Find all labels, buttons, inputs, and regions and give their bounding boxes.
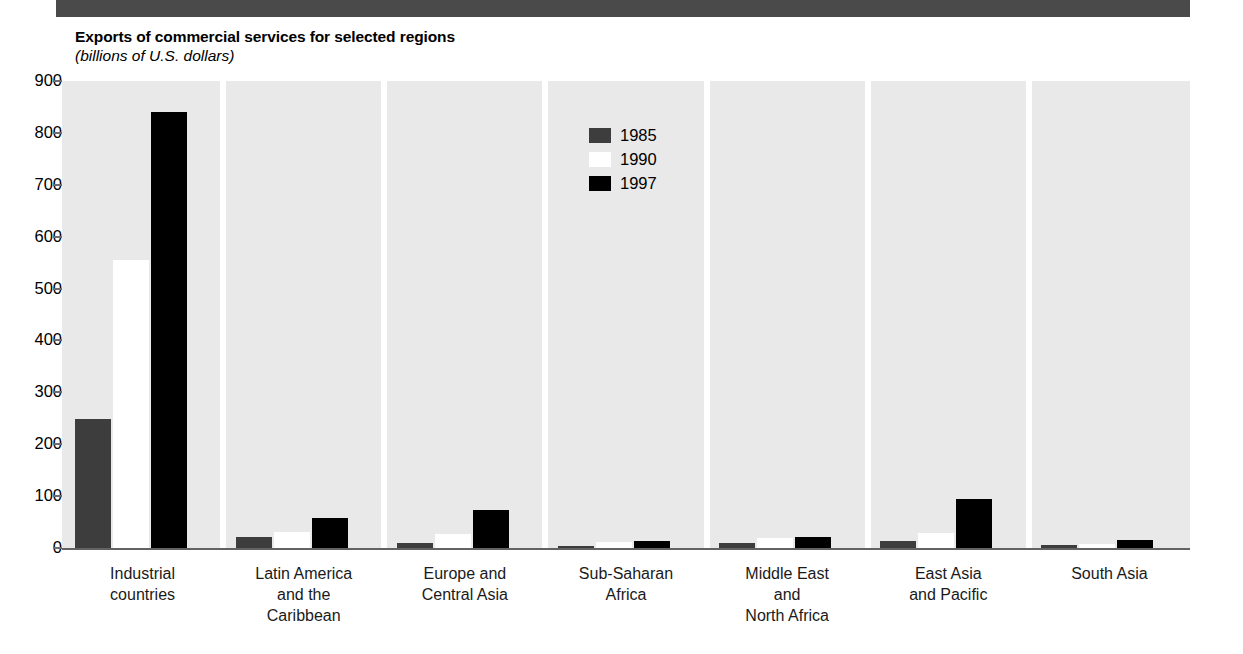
- bar-1990-1: [113, 260, 149, 548]
- x-axis-category-label-line: Middle East: [707, 563, 868, 584]
- chart-canvas: 9008007006005004003002001000 19851990199…: [0, 0, 1243, 654]
- bar-1997-2: [312, 518, 348, 548]
- bar-1997-4: [634, 541, 670, 548]
- x-axis-category-label-line: North Africa: [707, 605, 868, 626]
- x-axis-category-label-line: Africa: [545, 584, 706, 605]
- bar-1985-1: [75, 419, 111, 548]
- legend-item-1990: 1990: [589, 148, 657, 171]
- bar-1990-6: [918, 533, 954, 548]
- y-axis-tick-mark: [53, 288, 62, 290]
- legend-swatch-icon: [589, 176, 611, 191]
- x-axis-category-label: Middle EastandNorth Africa: [707, 563, 868, 626]
- x-axis-category-label-line: Latin America: [223, 563, 384, 584]
- y-axis-tick-mark: [53, 547, 62, 549]
- group-separator: [381, 81, 387, 548]
- y-axis-tick-mark: [53, 339, 62, 341]
- group-separator: [220, 81, 226, 548]
- bar-group: [223, 81, 384, 548]
- y-axis-tick-mark: [53, 391, 62, 393]
- group-separator: [704, 81, 710, 548]
- x-axis-category-label-line: East Asia: [868, 563, 1029, 584]
- x-axis-category-label: Latin Americaand theCaribbean: [223, 563, 384, 626]
- bar-group: [707, 81, 868, 548]
- legend-swatch-icon: [589, 152, 611, 167]
- legend-swatch-icon: [589, 128, 611, 143]
- bar-1997-7: [1117, 540, 1153, 548]
- x-axis-category-label: East Asiaand Pacific: [868, 563, 1029, 605]
- x-axis-line: [62, 548, 1190, 550]
- legend-label: 1997: [620, 175, 657, 192]
- bar-1997-3: [473, 510, 509, 548]
- x-axis-category-label-line: Industrial: [62, 563, 223, 584]
- x-axis-category-label-line: Europe and: [384, 563, 545, 584]
- x-axis-category-label-line: and: [707, 584, 868, 605]
- legend-item-1985: 1985: [589, 124, 657, 147]
- x-axis-category-label-line: Caribbean: [223, 605, 384, 626]
- group-separator: [542, 81, 548, 548]
- legend-item-1997: 1997: [589, 172, 657, 195]
- bar-1990-3: [435, 534, 471, 548]
- x-axis-category-label-line: Sub-Saharan: [545, 563, 706, 584]
- legend: 198519901997: [589, 124, 657, 196]
- x-axis-category-label-line: South Asia: [1029, 563, 1190, 584]
- x-axis-category-label: Sub-SaharanAfrica: [545, 563, 706, 605]
- y-axis: 9008007006005004003002001000: [0, 0, 62, 654]
- bar-1990-5: [757, 538, 793, 548]
- bar-1985-2: [236, 537, 272, 548]
- bar-1985-6: [880, 541, 916, 548]
- bar-1997-5: [795, 537, 831, 548]
- x-axis-category-label: South Asia: [1029, 563, 1190, 584]
- bar-1997-6: [956, 499, 992, 548]
- x-axis-category-label-line: countries: [62, 584, 223, 605]
- y-axis-tick-mark: [53, 495, 62, 497]
- y-axis-tick-mark: [53, 236, 62, 238]
- bar-group: [868, 81, 1029, 548]
- bar-group: [1029, 81, 1190, 548]
- y-axis-tick-mark: [53, 80, 62, 82]
- bar-group: [384, 81, 545, 548]
- x-axis-category-label: Industrialcountries: [62, 563, 223, 605]
- legend-label: 1990: [620, 151, 657, 168]
- y-axis-tick-mark: [53, 132, 62, 134]
- x-axis-category-label-line: Central Asia: [384, 584, 545, 605]
- y-axis-tick-mark: [53, 443, 62, 445]
- bar-1997-1: [151, 112, 187, 548]
- x-axis-category-label-line: and Pacific: [868, 584, 1029, 605]
- x-axis-category-label-line: and the: [223, 584, 384, 605]
- bar-1990-2: [274, 532, 310, 548]
- legend-label: 1985: [620, 127, 657, 144]
- y-axis-tick-mark: [53, 184, 62, 186]
- group-separator: [865, 81, 871, 548]
- group-separator: [1026, 81, 1032, 548]
- x-axis-category-label: Europe andCentral Asia: [384, 563, 545, 605]
